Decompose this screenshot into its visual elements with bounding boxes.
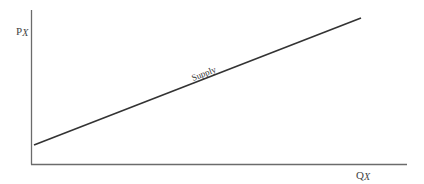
x-axis-label-main: Q [356, 169, 364, 181]
y-axis-label: PX [16, 25, 29, 38]
y-axis-label-subscript: X [21, 27, 29, 38]
supply-diagram: Supply PX QX [0, 0, 424, 184]
x-axis-label-subscript: X [363, 171, 371, 182]
supply-curve-label: Supply [190, 64, 218, 83]
x-axis-label: QX [356, 169, 371, 182]
supply-curve [34, 18, 361, 145]
